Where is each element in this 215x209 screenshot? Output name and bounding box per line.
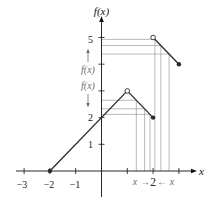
x-axis-arrow-icon — [191, 169, 197, 174]
guide-lines — [102, 39, 170, 171]
open-endpoint — [125, 89, 130, 94]
closed-endpoint — [177, 62, 181, 66]
arrow-left-icon: ← — [157, 176, 167, 187]
curve-segment — [50, 91, 127, 171]
x-approach-value: 2 — [150, 176, 156, 188]
x-tick-label-neg2: −2 — [44, 179, 55, 190]
y-approach-annotation: f(x) f(x) — [81, 49, 96, 108]
x-tick-label-neg1: −1 — [70, 179, 81, 190]
x-var-left: x — [132, 176, 138, 187]
open-endpoint — [151, 35, 156, 40]
axes — [16, 16, 197, 197]
y-tick-label-1: 1 — [88, 139, 93, 150]
curve-segment — [153, 38, 179, 65]
arrow-right-icon: → — [140, 176, 150, 187]
limit-graph-figure: f(x) x 5 2 1 −3 −2 −1 x → 2 ← x f(x) f(x… — [0, 0, 215, 209]
closed-endpoint — [48, 169, 52, 173]
x-axis-title: x — [198, 165, 204, 177]
arrow-down-icon — [86, 94, 89, 108]
y-axis-title: f(x) — [94, 5, 110, 18]
y-tick-label-2: 2 — [88, 112, 93, 123]
x-tick-label-neg3: −3 — [17, 179, 28, 190]
function-curve — [50, 38, 179, 172]
curve-segment — [127, 91, 153, 118]
y-tick-label-5: 5 — [88, 34, 93, 45]
lower-fx-label: f(x) — [81, 80, 96, 92]
x-var-right: x — [169, 176, 175, 187]
x-approach-annotation: x → 2 ← x — [132, 176, 175, 188]
closed-endpoint — [151, 115, 155, 119]
upper-fx-label: f(x) — [81, 64, 96, 76]
arrow-up-icon — [86, 49, 89, 63]
function-plot: f(x) x 5 2 1 −3 −2 −1 x → 2 ← x f(x) f(x… — [0, 0, 215, 209]
